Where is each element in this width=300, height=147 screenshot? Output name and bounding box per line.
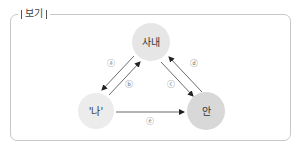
svg-text:ⓒ: ⓒ [167, 80, 175, 89]
node-sanae: 사내 [132, 23, 170, 61]
svg-text:ⓑ: ⓑ [125, 80, 133, 89]
node-an: 안 [187, 92, 225, 130]
relationship-diagram: 사내 '나' 안 ⓐ ⓑ ⓒ ⓓ ⓔ [0, 0, 300, 147]
svg-text:ⓔ: ⓔ [146, 117, 154, 126]
svg-text:ⓐ: ⓐ [107, 59, 115, 68]
edge-e-arrow: ⓔ [116, 112, 184, 126]
svg-text:ⓓ: ⓓ [190, 59, 198, 68]
svg-text:안: 안 [202, 106, 211, 117]
svg-text:사내: 사내 [142, 37, 160, 48]
edge-c-arrow: ⓒ [161, 62, 193, 96]
node-na: '나' [78, 93, 114, 129]
svg-text:'나': '나' [89, 106, 104, 117]
